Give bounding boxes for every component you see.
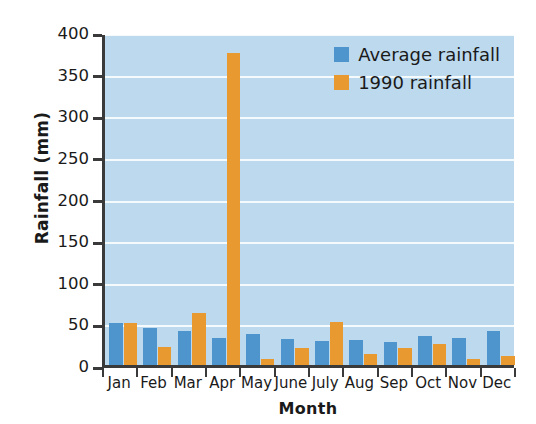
y-tick-mark <box>93 34 102 37</box>
x-tick-label-oct: Oct <box>415 374 441 392</box>
bar-aug-average <box>349 340 363 365</box>
legend-item-average-rainfall: Average rainfall <box>334 44 500 65</box>
bar-apr-average <box>212 338 226 365</box>
bar-group <box>139 35 173 365</box>
x-tick-mark <box>514 368 516 377</box>
legend: Average rainfall 1990 rainfall <box>334 44 500 100</box>
y-tick-label: 100 <box>58 274 90 293</box>
bar-sep-1990 <box>398 348 412 365</box>
bar-june-1990 <box>295 348 309 365</box>
legend-label-1990: 1990 rainfall <box>358 72 472 93</box>
legend-item-1990-rainfall: 1990 rainfall <box>334 72 500 93</box>
bar-june-average <box>281 339 295 365</box>
y-tick-label: 300 <box>58 107 90 126</box>
bar-july-1990 <box>330 322 344 365</box>
y-tick-label: 150 <box>58 232 90 251</box>
bar-may-average <box>246 334 260 365</box>
bar-group <box>105 35 139 365</box>
x-tick-label-aug: Aug <box>345 374 374 392</box>
y-tick-mark <box>93 158 102 161</box>
legend-swatch-icon-average <box>334 47 349 62</box>
plot-area: Average rainfall 1990 rainfall <box>102 35 514 368</box>
bar-group <box>174 35 208 365</box>
bar-sep-average <box>384 342 398 365</box>
y-tick-label: 250 <box>58 149 90 168</box>
y-tick-mark <box>93 117 102 120</box>
bar-apr-1990 <box>227 53 241 365</box>
x-tick-label-jan: Jan <box>108 374 131 392</box>
bar-mar-average <box>178 331 192 365</box>
bar-may-1990 <box>261 359 275 365</box>
y-tick-mark <box>93 283 102 286</box>
y-tick-mark <box>93 75 102 78</box>
bar-group <box>242 35 276 365</box>
legend-swatch-icon-1990 <box>334 75 349 90</box>
x-tick-label-apr: Apr <box>209 374 235 392</box>
y-axis-ticks: 050100150200250300350400 <box>0 35 102 368</box>
x-tick-label-july: July <box>312 374 339 392</box>
y-tick-label: 0 <box>79 357 90 376</box>
y-tick-label: 200 <box>58 191 90 210</box>
x-tick-label-mar: Mar <box>174 374 202 392</box>
bar-nov-average <box>452 338 466 365</box>
bar-mar-1990 <box>192 313 206 365</box>
y-tick-mark <box>93 325 102 328</box>
bar-jan-average <box>109 323 123 365</box>
x-tick-label-may: May <box>241 374 272 392</box>
x-tick-label-june: June <box>274 374 307 392</box>
x-tick-label-dec: Dec <box>482 374 511 392</box>
y-tick-mark <box>93 242 102 245</box>
bar-jan-1990 <box>124 323 138 365</box>
bar-aug-1990 <box>364 354 378 365</box>
y-tick-mark <box>93 367 102 370</box>
y-tick-label: 50 <box>68 315 89 334</box>
bar-dec-1990 <box>501 356 515 365</box>
bar-oct-1990 <box>433 344 447 365</box>
x-tick-label-sep: Sep <box>380 374 408 392</box>
bar-oct-average <box>418 336 432 365</box>
bar-feb-average <box>143 328 157 365</box>
y-tick-mark <box>93 200 102 203</box>
legend-label-average: Average rainfall <box>358 44 500 65</box>
rainfall-bar-chart: Rainfall (mm) 050100150200250300350400 A… <box>0 0 536 424</box>
x-axis-tick-labels: JanFebMarAprMayJuneJulyAugSepOctNovDec <box>102 374 514 396</box>
y-tick-label: 350 <box>58 66 90 85</box>
y-tick-label: 400 <box>58 24 90 43</box>
x-tick-label-feb: Feb <box>140 374 167 392</box>
bar-dec-average <box>487 331 501 365</box>
bar-july-average <box>315 341 329 365</box>
bar-group <box>208 35 242 365</box>
bar-nov-1990 <box>467 359 481 365</box>
x-tick-label-nov: Nov <box>448 374 477 392</box>
bar-group <box>277 35 311 365</box>
bar-feb-1990 <box>158 347 172 365</box>
x-axis-title: Month <box>102 399 514 418</box>
